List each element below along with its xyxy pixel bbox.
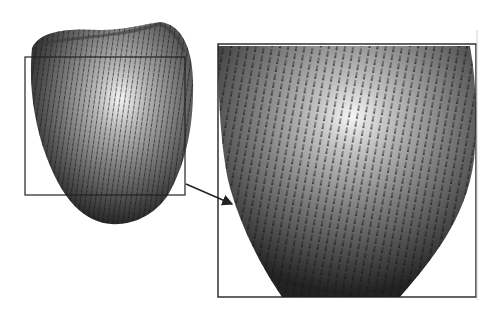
- magnify-arrow: [186, 184, 232, 204]
- figure-canvas: [0, 0, 500, 316]
- ventricle-vector-field: [31, 22, 193, 224]
- left-ventricle-view: [25, 22, 193, 224]
- magnified-vector-field: [218, 46, 476, 297]
- magnified-view: [218, 46, 476, 297]
